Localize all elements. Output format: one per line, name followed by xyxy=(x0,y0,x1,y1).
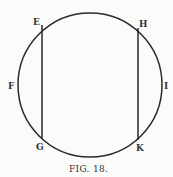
figure-caption: FIG. 18. xyxy=(69,164,108,174)
label-f: F xyxy=(8,81,15,91)
label-e: E xyxy=(33,17,40,27)
label-h: H xyxy=(139,19,148,29)
label-g: G xyxy=(36,142,44,152)
circle xyxy=(18,13,162,157)
label-i: I xyxy=(164,81,168,91)
label-k: K xyxy=(136,143,145,153)
figure-18-diagram: E H F I G K FIG. 18. xyxy=(0,0,173,177)
